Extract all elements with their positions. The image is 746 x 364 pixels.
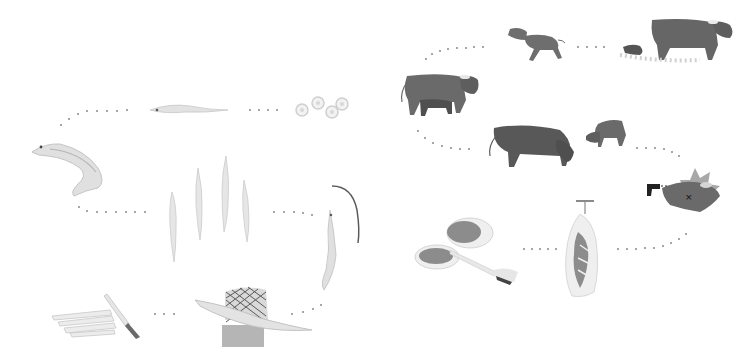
lifecycle-illustration: × Sturgeon lifecycle Cattle lifecycle (0, 0, 746, 364)
illustration-canvas: × (0, 0, 746, 364)
cow-with-newborn (620, 19, 733, 60)
hanging-carcass (566, 201, 598, 297)
grazing-cow (490, 125, 574, 167)
cow-nursing-calf (402, 74, 479, 116)
slaughter-scene: × (647, 168, 720, 212)
adult-sturgeon (32, 144, 102, 196)
sliced-fish-and-knife (52, 294, 140, 339)
fish-in-net (195, 287, 312, 347)
sturgeon-larva (150, 105, 228, 113)
sturgeon-on-hook (322, 186, 358, 290)
running-calf (508, 28, 565, 61)
sturgeon-dotted-path (60, 109, 322, 315)
young-bull (586, 120, 626, 147)
meat-cuts-and-knife (415, 218, 518, 285)
sturgeon-eggs (296, 97, 348, 118)
juvenile-fish (170, 156, 249, 262)
svg-text:×: × (685, 192, 693, 202)
